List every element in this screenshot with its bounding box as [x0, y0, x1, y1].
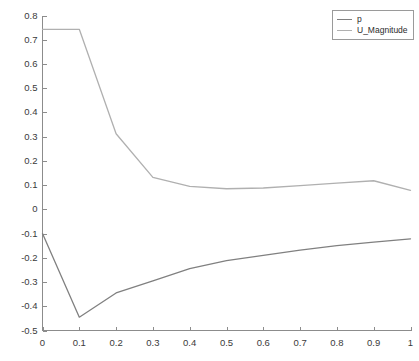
- legend-item-u-magnitude[interactable]: U_Magnitude: [337, 25, 407, 36]
- x-tick-label: 0.9: [354, 338, 394, 348]
- y-tick-label: -0.4: [21, 301, 37, 311]
- plot-canvas: [0, 0, 419, 361]
- y-tick-label: -0.2: [21, 253, 37, 263]
- legend-color-swatch: [337, 19, 352, 20]
- x-tick-label: 0.2: [96, 338, 136, 348]
- legend-label: U_Magnitude: [357, 26, 408, 35]
- x-tick-label: 0.4: [170, 338, 210, 348]
- series-line-u-magnitude: [43, 29, 411, 190]
- y-tick-label: 0.6: [24, 59, 37, 69]
- x-tick-label: 0.6: [243, 338, 283, 348]
- y-tick-label: -0.1: [21, 229, 37, 239]
- x-tick-label: 0.8: [317, 338, 357, 348]
- x-tick-label: 1: [391, 338, 419, 348]
- x-tick-label: 0.3: [133, 338, 173, 348]
- x-tick-label: 0.7: [280, 338, 320, 348]
- y-tick-label: 0.8: [24, 11, 37, 21]
- y-tick-label: 0.4: [24, 107, 37, 117]
- axis-ticks: [43, 17, 412, 332]
- y-tick-label: 0.3: [24, 132, 37, 142]
- x-tick-label: 0.5: [207, 338, 247, 348]
- y-tick-label: -0.5: [21, 326, 37, 336]
- y-tick-label: 0: [32, 204, 37, 214]
- chart-legend: pU_Magnitude: [332, 10, 414, 40]
- x-tick-label: 0.1: [59, 338, 99, 348]
- y-tick-label: 0.5: [24, 83, 37, 93]
- y-tick-label: 0.1: [24, 180, 37, 190]
- y-tick-label: 0.2: [24, 156, 37, 166]
- y-tick-label: 0.7: [24, 35, 37, 45]
- data-series-group: [43, 29, 411, 317]
- y-tick-label: -0.3: [21, 277, 37, 287]
- legend-label: p: [357, 15, 362, 24]
- legend-item-p[interactable]: p: [337, 14, 407, 25]
- series-line-p: [43, 234, 411, 318]
- line-chart: 0.80.70.60.50.40.30.20.10-0.1-0.2-0.3-0.…: [0, 0, 419, 361]
- x-tick-label: 0: [23, 338, 63, 348]
- axes: [43, 16, 411, 331]
- legend-color-swatch: [337, 30, 352, 31]
